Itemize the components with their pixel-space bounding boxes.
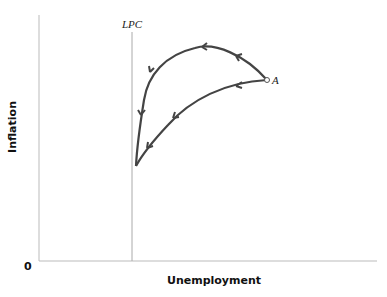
arrow-icon (149, 66, 154, 72)
arrow-icon (236, 82, 242, 88)
lpc-label: LPC (121, 18, 143, 30)
origin-label: 0 (24, 260, 32, 273)
x-axis-title: Unemployment (167, 274, 261, 287)
point-a-label: A (271, 74, 279, 86)
upper-loop-curve (136, 47, 267, 166)
phillips-curve-diagram: LPC A 0 Unemployment Inflation (0, 0, 387, 297)
y-axis-title: Inflation (6, 101, 19, 153)
arrow-icons (138, 43, 242, 148)
point-a-marker (265, 78, 270, 83)
lower-path-curve (136, 80, 267, 166)
